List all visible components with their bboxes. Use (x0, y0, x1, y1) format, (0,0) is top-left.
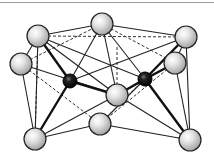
atom-right (164, 52, 186, 74)
atom-bottom-center (89, 113, 111, 135)
atom-top (91, 13, 113, 35)
atom-left (10, 53, 32, 75)
atom-center (106, 84, 128, 106)
molecular-structure-diagram (0, 0, 214, 160)
atom-bottom-left (24, 128, 46, 150)
atom-dark-right (138, 72, 152, 86)
atom-dark-left (63, 74, 77, 88)
grey-atoms (10, 13, 201, 151)
atom-bottom-right (179, 129, 201, 151)
atom-upper-left (27, 25, 49, 47)
atom-upper-right (175, 26, 197, 48)
